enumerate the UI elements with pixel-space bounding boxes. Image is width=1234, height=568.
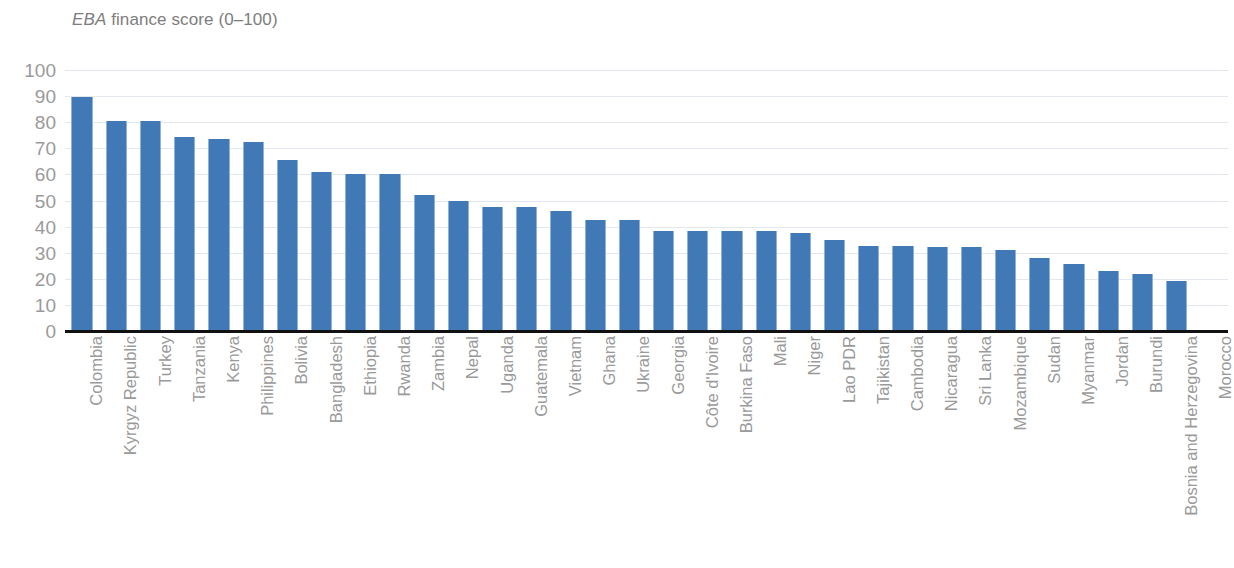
y-axis-tick-label: 30	[0, 243, 56, 262]
x-axis-tick-label: Tanzania	[191, 336, 208, 402]
bar	[653, 231, 674, 331]
x-axis-tick-label: Vietnam	[567, 336, 584, 396]
x-axis-tick-label: Ghana	[601, 336, 618, 386]
bar	[687, 231, 708, 331]
x-axis-tick-label: Tajikistan	[875, 336, 892, 404]
bar	[892, 246, 913, 331]
x-axis-tick-label: Myanmar	[1080, 336, 1097, 405]
bar	[1098, 271, 1119, 331]
bar	[1029, 258, 1050, 331]
x-axis-tick-label: Niger	[806, 336, 823, 375]
bar	[1132, 274, 1153, 331]
x-axis-tick-label: Lao PDR	[841, 336, 858, 403]
bar	[858, 246, 879, 331]
bar	[379, 174, 400, 331]
bar	[106, 121, 127, 331]
x-axis-tick-label: Bangladesh	[328, 336, 345, 423]
chart-title-emphasis: EBA	[72, 10, 106, 29]
bar-series	[65, 70, 1228, 331]
y-axis: 1009080706050403020100	[0, 70, 56, 331]
x-axis-tick-label: Philippines	[259, 336, 276, 416]
y-axis-tick-label: 10	[0, 295, 56, 314]
bar	[208, 139, 229, 331]
x-axis-tick-label: Burkina Faso	[738, 336, 755, 433]
x-axis-tick-label: Bolivia	[293, 336, 310, 385]
bar	[277, 160, 298, 331]
bar	[345, 174, 366, 331]
bar	[311, 172, 332, 331]
bar	[995, 250, 1016, 331]
x-axis-tick-label: Turkey	[157, 336, 174, 386]
x-axis-tick-label: Zambia	[430, 336, 447, 391]
x-axis-tick-label: Jordan	[1114, 336, 1131, 386]
x-axis-tick-label: Mali	[772, 336, 789, 366]
x-axis-tick-label: Côte d'Ivoire	[704, 336, 721, 428]
chart-title-rest: finance score (0–100)	[106, 10, 277, 29]
x-axis-tick-label: Uganda	[499, 336, 516, 394]
bar	[71, 97, 92, 331]
bar	[140, 121, 161, 331]
bar	[516, 207, 537, 331]
y-axis-tick-label: 40	[0, 217, 56, 236]
bar	[1063, 264, 1084, 331]
bar	[243, 142, 264, 331]
x-axis-tick-label: Sri Lanka	[977, 336, 994, 406]
y-axis-tick-label: 0	[0, 322, 56, 341]
bar	[824, 240, 845, 331]
x-axis-tick-label: Ethiopia	[362, 336, 379, 396]
y-axis-tick-label: 70	[0, 139, 56, 158]
y-axis-tick-label: 60	[0, 165, 56, 184]
x-axis: ColombiaKyrgyz RepublicTurkeyTanzaniaKen…	[65, 336, 1228, 568]
x-axis-tick-label: Bosnia and Herzegovina	[1183, 336, 1200, 516]
bar	[619, 220, 640, 331]
x-axis-tick-label: Burundi	[1148, 336, 1165, 393]
bar	[550, 211, 571, 331]
bar	[174, 137, 195, 331]
x-axis-tick-label: Kyrgyz Republic	[122, 336, 139, 455]
bar	[721, 231, 742, 331]
x-axis-tick-label: Morocco	[1217, 336, 1234, 399]
x-axis-tick-label: Georgia	[670, 336, 687, 395]
x-axis-tick-label: Ukraine	[635, 336, 652, 393]
bar	[756, 231, 777, 331]
x-axis-line	[65, 330, 1228, 333]
x-axis-tick-label: Nepal	[464, 336, 481, 379]
bar	[1166, 281, 1187, 331]
x-axis-tick-label: Cambodia	[909, 336, 926, 411]
y-axis-tick-label: 20	[0, 269, 56, 288]
bar	[448, 201, 469, 332]
x-axis-tick-label: Sudan	[1046, 336, 1063, 384]
bar	[414, 195, 435, 331]
x-axis-tick-label: Rwanda	[396, 336, 413, 397]
bar	[961, 247, 982, 331]
y-axis-tick-label: 80	[0, 113, 56, 132]
y-axis-tick-label: 50	[0, 191, 56, 210]
chart-title: EBA finance score (0–100)	[72, 10, 278, 30]
bar	[927, 247, 948, 331]
x-axis-tick-label: Nicaragua	[943, 336, 960, 411]
y-axis-tick-label: 100	[0, 61, 56, 80]
x-axis-tick-label: Guatemala	[533, 336, 550, 417]
y-axis-tick-label: 90	[0, 87, 56, 106]
bar	[482, 207, 503, 331]
x-axis-tick-label: Mozambique	[1012, 336, 1029, 430]
bar	[585, 220, 606, 331]
bar	[790, 233, 811, 331]
x-axis-tick-label: Kenya	[225, 336, 242, 383]
x-axis-tick-label: Colombia	[88, 336, 105, 406]
